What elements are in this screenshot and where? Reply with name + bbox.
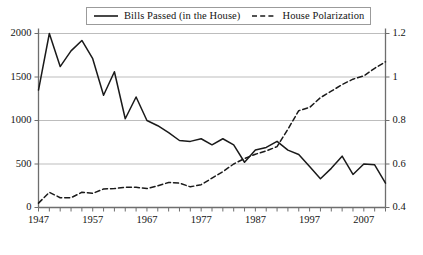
legend-entry-bills-passed: Bills Passed (in the House) xyxy=(93,8,240,24)
y-left-tick-label: 500 xyxy=(0,159,32,170)
y-left-tick-label: 1000 xyxy=(0,115,32,126)
x-tick-label: 2007 xyxy=(344,215,384,226)
y-left-tick-label: 0 xyxy=(0,202,32,213)
legend-label-house-polarization: House Polarization xyxy=(282,11,364,22)
chart-legend: Bills Passed (in the House) House Polari… xyxy=(86,7,371,25)
x-tick-label: 1967 xyxy=(127,215,167,226)
x-tick-label: 1977 xyxy=(181,215,221,226)
x-tick-label: 1987 xyxy=(235,215,275,226)
y-right-tick-label: 1.2 xyxy=(393,28,406,39)
y-right-tick-label: 0.4 xyxy=(393,202,406,213)
y-right-tick-label: 0.6 xyxy=(393,159,406,170)
legend-swatch-dashed-line-icon xyxy=(251,11,277,21)
y-right-tick-label: 0.8 xyxy=(393,115,406,126)
y-left-tick-label: 1500 xyxy=(0,72,32,83)
y-right-tick-label: 1 xyxy=(393,72,398,83)
legend-label-bills-passed: Bills Passed (in the House) xyxy=(124,11,240,22)
legend-swatch-solid-line-icon xyxy=(93,11,119,21)
series-line-house-polarization xyxy=(39,62,386,203)
legend-entry-house-polarization: House Polarization xyxy=(251,8,364,24)
x-tick-label: 1997 xyxy=(290,215,330,226)
series-lines xyxy=(39,34,386,204)
x-tick-label: 1957 xyxy=(73,215,113,226)
series-line-bills-passed xyxy=(39,34,386,184)
x-tick-label: 1947 xyxy=(19,215,59,226)
y-left-tick-label: 2000 xyxy=(0,28,32,39)
dual-axis-line-chart: Bills Passed (in the House) House Polari… xyxy=(0,0,423,255)
